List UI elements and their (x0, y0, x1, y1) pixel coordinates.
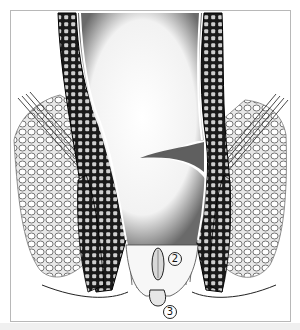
anatomy-illustration (0, 0, 300, 330)
label-3: 3 (163, 305, 177, 319)
right-perianal-skin (192, 285, 276, 297)
left-perianal-skin (42, 285, 128, 297)
skin-tag (149, 290, 165, 306)
label-2: 2 (168, 252, 182, 266)
